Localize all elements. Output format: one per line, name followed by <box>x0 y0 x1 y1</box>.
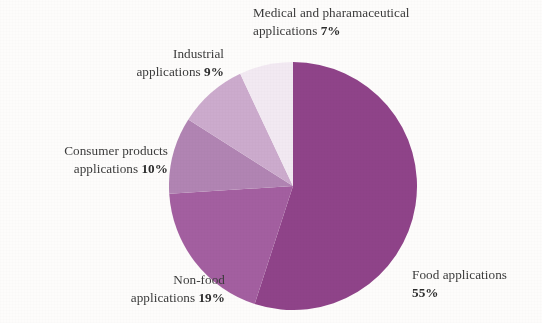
pie-label-consumer-products-line2: applications <box>74 161 142 176</box>
pie-label-medical-line2: applications <box>253 23 321 38</box>
pie-label-food: Food applications55% <box>412 266 542 301</box>
pie-label-industrial-line1: Industrial <box>173 46 224 61</box>
pie-label-food-line1: Food applications <box>412 267 507 282</box>
pie-label-non-food-line1: Non-food <box>173 272 225 287</box>
pie-label-food-value: 55% <box>412 285 439 300</box>
pie-label-non-food: Non-foodapplications 19% <box>30 271 225 306</box>
pie-label-medical-value: 7% <box>321 23 341 38</box>
pie-label-industrial: Industrialapplications 9% <box>46 45 224 80</box>
pie-label-industrial-line2: applications <box>136 64 204 79</box>
pie-label-industrial-value: 9% <box>204 64 224 79</box>
pie-label-medical: Medical and pharamaceuticalapplications … <box>253 4 503 39</box>
pie-label-medical-line1: Medical and pharamaceutical <box>253 5 410 20</box>
pie-label-consumer-products-value: 10% <box>141 161 168 176</box>
pie-label-non-food-line2: applications <box>131 290 199 305</box>
pie-chart-figure: Medical and pharamaceuticalapplications … <box>0 0 542 323</box>
pie-label-non-food-value: 19% <box>198 290 225 305</box>
pie-label-consumer-products-line1: Consumer products <box>64 143 168 158</box>
pie-label-consumer-products: Consumer productsapplications 10% <box>0 142 168 177</box>
